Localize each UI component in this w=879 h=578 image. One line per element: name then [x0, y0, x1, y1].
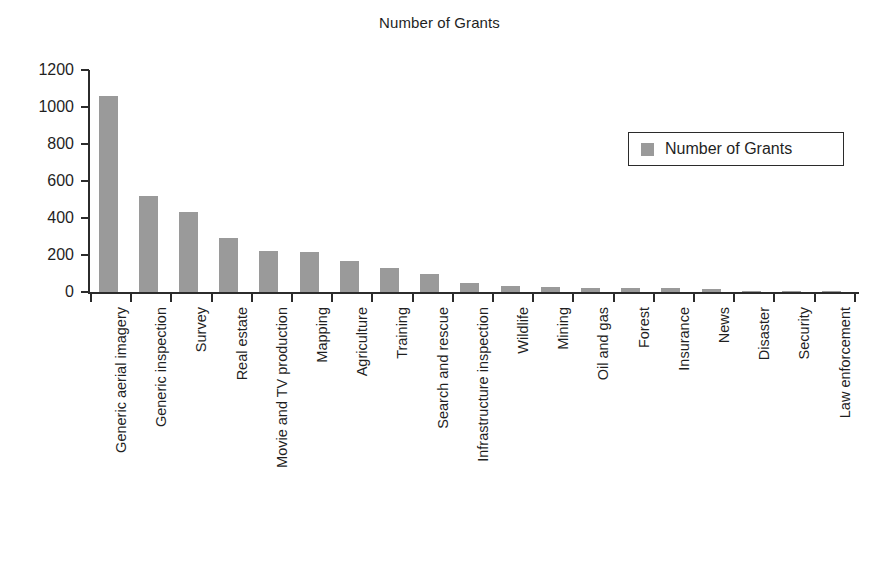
- x-tick-mark: [371, 294, 373, 302]
- x-tick-mark: [291, 294, 293, 302]
- x-category-label: Wildlife: [516, 307, 531, 354]
- x-category-label: Movie and TV production: [275, 307, 290, 468]
- legend-swatch-icon: [641, 143, 654, 156]
- x-tick-mark: [130, 294, 132, 302]
- plot-area: 020040060080010001200 Generic aerial ima…: [0, 0, 879, 578]
- bar: [822, 291, 841, 292]
- y-axis-line: [88, 70, 90, 294]
- x-tick-mark: [331, 294, 333, 302]
- bar: [219, 238, 238, 292]
- bar: [661, 288, 680, 292]
- y-tick-label: 800: [47, 136, 74, 152]
- x-category-label: Security: [797, 307, 812, 359]
- x-category-label: Agriculture: [355, 307, 370, 376]
- x-tick-mark: [211, 294, 213, 302]
- bar: [581, 288, 600, 292]
- x-tick-mark: [613, 294, 615, 302]
- legend-label: Number of Grants: [665, 141, 792, 157]
- bar: [179, 212, 198, 292]
- bar: [300, 252, 319, 292]
- bar: [420, 274, 439, 293]
- x-tick-mark: [532, 294, 534, 302]
- bar: [501, 286, 520, 292]
- y-tick-label: 200: [47, 247, 74, 263]
- x-tick-mark: [572, 294, 574, 302]
- x-tick-mark: [854, 294, 856, 302]
- y-tick-mark: [81, 291, 89, 293]
- x-category-label: Real estate: [235, 307, 250, 380]
- x-category-label: Generic inspection: [154, 307, 169, 427]
- bar: [259, 251, 278, 292]
- x-tick-mark: [693, 294, 695, 302]
- y-tick-mark: [81, 217, 89, 219]
- x-tick-mark: [773, 294, 775, 302]
- x-tick-mark: [452, 294, 454, 302]
- y-tick-mark: [81, 69, 89, 71]
- x-category-label: Mining: [556, 307, 571, 350]
- bar: [782, 291, 801, 292]
- x-tick-mark: [733, 294, 735, 302]
- x-tick-mark: [170, 294, 172, 302]
- bar-chart: Number of Grants 020040060080010001200 G…: [0, 0, 879, 578]
- x-category-label: Generic aerial imagery: [114, 307, 129, 453]
- x-axis-line: [88, 292, 859, 294]
- x-tick-mark: [653, 294, 655, 302]
- x-category-label: Survey: [194, 307, 209, 352]
- x-category-label: Search and rescue: [436, 307, 451, 429]
- x-tick-mark: [90, 294, 92, 302]
- chart-legend: Number of Grants: [628, 132, 844, 166]
- x-category-label: Disaster: [757, 307, 772, 360]
- y-tick-label: 1000: [38, 99, 74, 115]
- x-category-label: Law enforcement: [838, 307, 853, 418]
- x-tick-mark: [251, 294, 253, 302]
- bar: [99, 96, 118, 292]
- y-tick-mark: [81, 254, 89, 256]
- bar: [742, 291, 761, 292]
- bar: [139, 196, 158, 292]
- y-tick-label: 1200: [38, 62, 74, 78]
- bar: [380, 268, 399, 292]
- x-category-label: Training: [395, 307, 410, 359]
- bar: [621, 288, 640, 292]
- x-tick-mark: [814, 294, 816, 302]
- y-tick-mark: [81, 143, 89, 145]
- y-tick-label: 400: [47, 210, 74, 226]
- y-tick-label: 600: [47, 173, 74, 189]
- y-tick-label: 0: [65, 284, 74, 300]
- x-tick-mark: [412, 294, 414, 302]
- x-category-label: News: [717, 307, 732, 343]
- x-tick-mark: [492, 294, 494, 302]
- x-category-label: Oil and gas: [596, 307, 611, 380]
- y-tick-mark: [81, 106, 89, 108]
- x-category-label: Insurance: [677, 307, 692, 371]
- y-tick-mark: [81, 180, 89, 182]
- bar: [541, 287, 560, 292]
- bar: [460, 283, 479, 292]
- x-category-label: Mapping: [315, 307, 330, 363]
- bar: [340, 261, 359, 292]
- x-category-label: Infrastructure inspection: [476, 307, 491, 462]
- x-category-label: Forest: [637, 307, 652, 348]
- bar: [702, 289, 721, 292]
